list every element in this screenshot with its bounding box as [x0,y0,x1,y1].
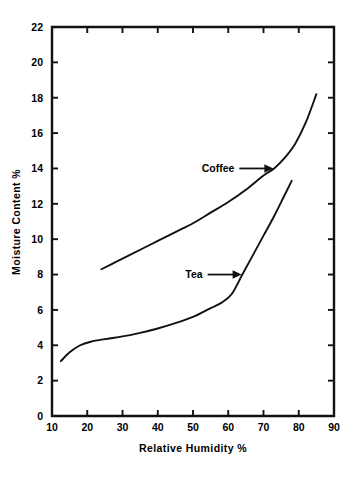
x-tick-label-40: 40 [152,421,164,433]
y-tick-label-16: 16 [31,127,43,139]
y-tick-label-8: 8 [37,268,43,280]
coffee-annotation: Coffee [202,162,274,174]
y-tick-label-2: 2 [37,374,43,386]
x-tick-label-50: 50 [187,421,199,433]
tea-annotation: Tea [185,268,241,280]
y-tick-label-12: 12 [31,198,43,210]
x-tick-label-70: 70 [258,421,270,433]
chart-figure: 0246810121416182022 102030405060708090 C… [0,0,360,481]
x-tick-label-90: 90 [328,421,340,433]
data-series-group [61,94,317,361]
y-tick-label-6: 6 [37,304,43,316]
x-tick-label-80: 80 [293,421,305,433]
y-tick-label-10: 10 [31,233,43,245]
x-axis-tick-labels: 102030405060708090 [46,421,340,433]
x-tick-label-60: 60 [222,421,234,433]
y-tick-label-18: 18 [31,92,43,104]
y-tick-label-22: 22 [31,21,43,33]
series-curve-coffee [101,94,316,269]
series-curve-tea [61,181,292,361]
y-axis-tick-labels: 0246810121416182022 [31,21,43,422]
y-tick-label-4: 4 [37,339,43,351]
y-axis-title: Moisture Content % [10,169,22,275]
tea-annotation-label: Tea [185,268,202,280]
coffee-annotation-label: Coffee [202,162,235,174]
y-tick-label-14: 14 [31,162,43,174]
y-tick-label-0: 0 [37,410,43,422]
x-axis-title: Relative Humidity % [139,442,247,454]
y-tick-label-20: 20 [31,56,43,68]
moisture-humidity-chart: 0246810121416182022 102030405060708090 C… [0,0,360,481]
annotation-group: CoffeeTea [185,162,273,280]
plot-frame [52,27,334,416]
x-tick-label-30: 30 [117,421,129,433]
x-tick-label-20: 20 [81,421,93,433]
x-tick-label-10: 10 [46,421,58,433]
